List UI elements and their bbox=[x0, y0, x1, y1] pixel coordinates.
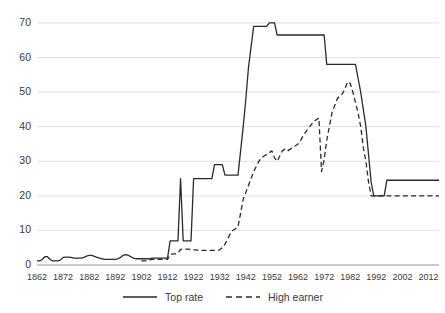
y-tick-label: 10 bbox=[19, 224, 31, 235]
chart-container: 010203040506070 186218721882189219021912… bbox=[0, 0, 445, 313]
gridlines-group bbox=[37, 23, 439, 231]
y-tick-label: 0 bbox=[25, 259, 31, 270]
y-tick-label: 20 bbox=[19, 190, 31, 201]
series-line-high-earner bbox=[141, 82, 439, 261]
legend-solid-line-icon bbox=[122, 292, 158, 302]
chart-legend: Top rate High earner bbox=[0, 292, 445, 303]
y-tick-label: 70 bbox=[19, 17, 31, 28]
y-tick-label: 50 bbox=[19, 86, 31, 97]
series-lines-group bbox=[37, 23, 439, 261]
legend-dashed-line-icon bbox=[225, 292, 261, 302]
y-tick-label: 60 bbox=[19, 52, 31, 63]
y-tick-label: 30 bbox=[19, 155, 31, 166]
x-tick-label: 2012 bbox=[411, 273, 445, 282]
legend-item-high-earner: High earner bbox=[225, 292, 323, 303]
legend-label-top-rate: Top rate bbox=[165, 292, 203, 303]
legend-item-top-rate: Top rate bbox=[122, 292, 203, 303]
line-chart-plot bbox=[0, 0, 445, 313]
y-tick-label: 40 bbox=[19, 121, 31, 132]
legend-label-high-earner: High earner bbox=[268, 292, 323, 303]
